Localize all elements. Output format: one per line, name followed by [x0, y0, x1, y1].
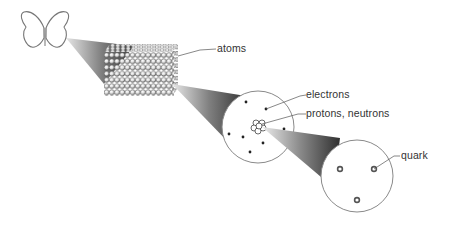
- butterfly-icon: [21, 12, 68, 48]
- label-quark: quark: [401, 149, 428, 161]
- label-atoms: atoms: [217, 42, 246, 54]
- atom-lattice: [104, 44, 178, 96]
- atom-diagram: [222, 91, 294, 163]
- label-electrons: electrons: [306, 88, 350, 100]
- nucleon-diagram: [321, 140, 393, 212]
- label-protons-neutrons: protons, neutrons: [306, 107, 389, 119]
- leader-atoms: [178, 49, 216, 56]
- diagram-canvas: atoms electrons protons, neutrons quark: [0, 0, 452, 226]
